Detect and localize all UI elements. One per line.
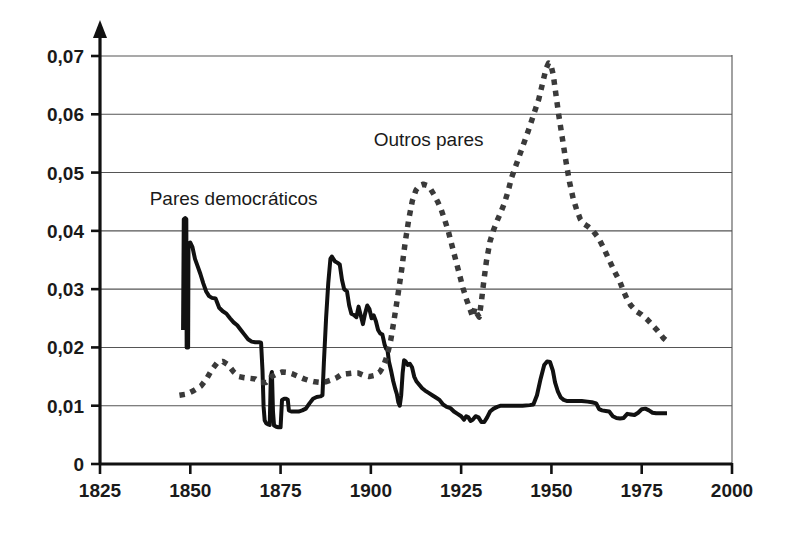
y-tick-label-6: 0,06: [47, 104, 84, 125]
x-tick-label-4: 1925: [440, 480, 483, 501]
data-series-group: [179, 63, 668, 427]
y-axis: [91, 20, 107, 464]
chart-container: 00,010,020,030,040,050,060,07 1825185018…: [0, 0, 788, 534]
x-tick-label-1: 1850: [169, 480, 211, 501]
y-tick-label-5: 0,05: [47, 163, 84, 184]
series-path-outros-pares: [179, 63, 668, 395]
x-tick-label-7: 2000: [711, 480, 753, 501]
x-tick-labels: 18251850187519001925195019752000: [79, 480, 753, 501]
series-annotations: Pares democráticosOutros pares: [150, 129, 484, 208]
y-tick-label-1: 0,01: [47, 396, 84, 417]
x-tick-label-6: 1975: [621, 480, 664, 501]
y-axis-arrow: [93, 20, 107, 38]
x-tick-label-0: 1825: [79, 480, 122, 501]
annotation-0: Pares democráticos: [150, 188, 318, 209]
y-tick-label-4: 0,04: [47, 221, 84, 242]
y-tick-labels: 00,010,020,030,040,050,060,07: [47, 46, 84, 475]
x-tick-label-2: 1875: [259, 480, 302, 501]
x-tick-label-3: 1900: [350, 480, 392, 501]
line-chart: 00,010,020,030,040,050,060,07 1825185018…: [0, 0, 788, 534]
y-tick-label-7: 0,07: [47, 46, 84, 67]
x-axis: [100, 463, 732, 474]
y-tick-label-2: 0,02: [47, 337, 84, 358]
x-tick-label-5: 1950: [530, 480, 572, 501]
y-tick-label-0: 0: [73, 454, 84, 475]
annotation-1: Outros pares: [374, 129, 484, 150]
series-path-pares-democraticos: [183, 218, 667, 427]
y-tick-label-3: 0,03: [47, 279, 84, 300]
